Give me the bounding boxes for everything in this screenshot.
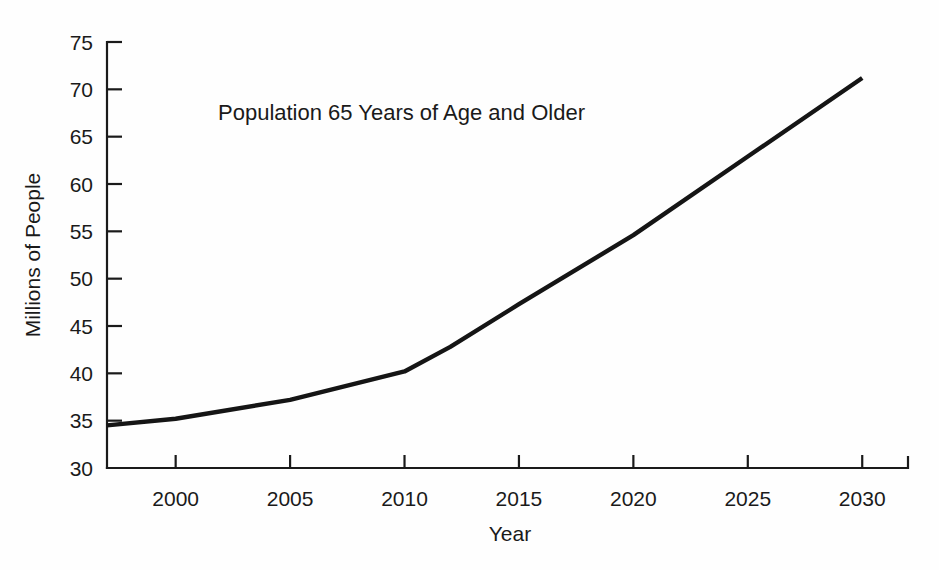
- y-tick-label: 30: [70, 457, 93, 480]
- x-tick-label: 2005: [267, 487, 314, 510]
- y-tick-label: 75: [70, 31, 93, 54]
- y-axis-title: Millions of People: [21, 173, 44, 338]
- line-chart: 30354045505560657075 2000200520102015202…: [0, 0, 939, 570]
- y-tick-label: 55: [70, 220, 93, 243]
- y-tick-label: 45: [70, 315, 93, 338]
- x-tick-label: 2020: [610, 487, 657, 510]
- y-tick-label: 65: [70, 125, 93, 148]
- x-axis-line: [107, 457, 908, 468]
- x-tick-label: 2015: [496, 487, 543, 510]
- y-tick-label: 35: [70, 409, 93, 432]
- x-tick-label: 2030: [839, 487, 886, 510]
- x-axis-ticks: [176, 455, 863, 468]
- x-tick-label: 2010: [381, 487, 428, 510]
- chart-title: Population 65 Years of Age and Older: [218, 100, 585, 125]
- y-tick-label: 70: [70, 78, 93, 101]
- data-series-group: [107, 78, 862, 425]
- x-axis-tick-labels: 2000200520102015202020252030: [152, 487, 885, 510]
- y-tick-label: 50: [70, 267, 93, 290]
- x-tick-label: 2025: [724, 487, 771, 510]
- y-axis-ticks: [107, 42, 122, 421]
- y-tick-label: 40: [70, 362, 93, 385]
- data-line: [107, 78, 862, 425]
- x-tick-label: 2000: [152, 487, 199, 510]
- chart-figure: 30354045505560657075 2000200520102015202…: [0, 0, 939, 570]
- y-tick-label: 60: [70, 173, 93, 196]
- y-axis-tick-labels: 30354045505560657075: [70, 31, 93, 480]
- x-axis-title: Year: [489, 522, 531, 545]
